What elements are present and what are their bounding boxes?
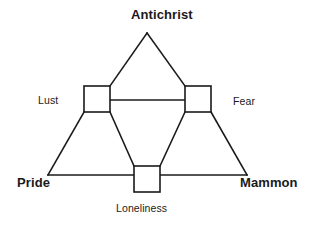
label-lust: Lust [38,95,58,106]
label-loneliness: Loneliness [116,203,167,214]
label-mammon: Mammon [240,176,298,189]
edge-left-node-to-pride [48,112,84,175]
edge-right-node-to-bottom-node [160,112,185,166]
edge-apex-to-left-node [110,33,147,86]
node-square-fear [185,86,211,112]
label-fear: Fear [233,96,255,107]
outer-triangle-edges [48,33,247,175]
edge-right-node-to-mammon [211,112,247,175]
node-squares [84,86,211,192]
node-square-loneliness [134,166,160,192]
triangle-diagram-graphic [0,0,316,226]
inner-triangle-edges [110,100,185,166]
diagram-canvas: Antichrist Lust Fear Pride Mammon Loneli… [0,0,316,226]
node-square-lust [84,86,110,112]
edge-left-node-to-bottom-node [110,112,134,166]
label-antichrist: Antichrist [131,8,193,21]
label-pride: Pride [17,176,50,189]
edge-apex-to-right-node [147,33,185,86]
